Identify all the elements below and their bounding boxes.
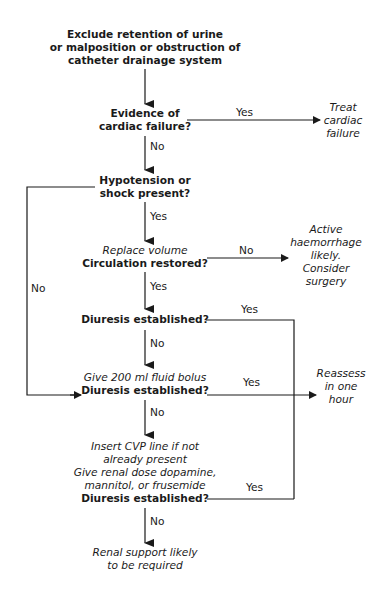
outcome-treat-cardiac-failure: Treat cardiac failure (318, 101, 368, 140)
outcome-reassess: Reassess in one hour (316, 367, 366, 406)
start-step: Exclude retention of urine or malpositio… (40, 28, 250, 67)
label-q4-yes: Yes (241, 303, 258, 316)
label-q2-no: No (31, 282, 45, 295)
question-cardiac-failure: Evidence of cardiac failure? (90, 107, 200, 133)
question-hypotension-shock: Hypotension or shock present? (90, 174, 200, 200)
label-q3-yes: Yes (150, 280, 167, 293)
label-q6-no: No (150, 515, 164, 528)
label-q4-no: No (150, 337, 164, 350)
question-circulation-restored: Replace volume Circulation restored? (70, 244, 220, 270)
label-q1-yes: Yes (236, 106, 253, 119)
label-q3-no: No (239, 244, 253, 257)
label-q5-no: No (150, 406, 164, 419)
end-renal-support: Renal support likely to be required (70, 546, 220, 572)
question-diuresis-3: Insert CVP line if not already present G… (55, 440, 235, 505)
label-q6-yes: Yes (246, 481, 263, 494)
label-q1-no: No (150, 140, 164, 153)
label-q2-yes: Yes (150, 210, 167, 223)
label-q5-yes: Yes (243, 376, 260, 389)
question-diuresis-2: Give 200 ml fluid bolus Diuresis establi… (70, 371, 220, 397)
question-diuresis-1: Diuresis established? (80, 313, 210, 326)
outcome-active-haemorrhage: Active haemorrhage likely. Consider surg… (286, 223, 366, 288)
